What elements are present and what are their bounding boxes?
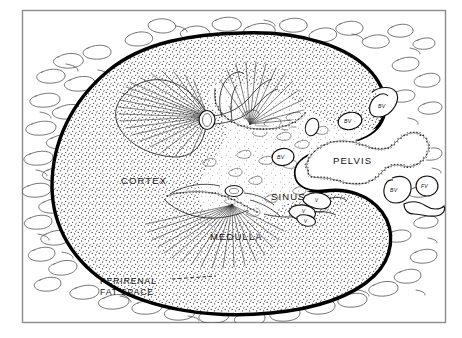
label-perirenal-fat-space-line2: FAT SPACE (100, 287, 154, 297)
label-perirenal-fat-space-line1: PERIRENAL (100, 276, 157, 286)
kidney-cross-section-figure: CORTEX MEDULLA SINUS PELVIS PERIRENAL FA… (0, 0, 462, 338)
label-v-sinus-left: V (304, 219, 308, 224)
lower-papilla (225, 186, 243, 197)
label-fv-lower-right: FV (421, 183, 428, 189)
label-bv-sinus: BV (277, 154, 285, 160)
label-bv-upper-inner: BV (344, 118, 352, 124)
label-bv-lower-right: BV (390, 187, 398, 193)
label-v-upper-calyx: V (229, 106, 233, 111)
label-sinus: SINUS (271, 191, 306, 202)
label-pelvis: PELVIS (333, 155, 372, 166)
label-bv-upper-outer: BV (378, 103, 386, 109)
label-medulla: MEDULLA (210, 231, 263, 242)
label-cortex: CORTEX (121, 175, 167, 186)
label-v-sinus-upper: V (315, 198, 319, 203)
diagram-canvas: CORTEX MEDULLA SINUS PELVIS PERIRENAL FA… (0, 0, 462, 338)
label-v-sinus-lower: V (302, 209, 306, 214)
